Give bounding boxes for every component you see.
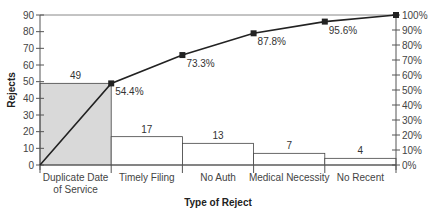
x-tick-label: No Auth (200, 172, 236, 183)
y-tick-label: 20 (23, 126, 35, 137)
y2-tick-label: 30% (402, 115, 422, 126)
x-tick-label: Timely Filing (119, 172, 175, 183)
line-marker (322, 19, 328, 25)
y-tick-label: 10 (23, 143, 35, 154)
bar (182, 143, 253, 165)
bar-value-label: 17 (141, 124, 153, 135)
y2-tick-label: 80% (402, 40, 422, 51)
x-tick-label: Duplicate Date (43, 172, 109, 183)
x-tick-label: Medical Necessity (249, 172, 330, 183)
bar (325, 158, 396, 165)
y-tick-label: 90 (23, 10, 35, 21)
line-marker (179, 52, 185, 58)
y2-tick-label: 100% (402, 10, 428, 21)
y-tick-label: 30 (23, 110, 35, 121)
line-marker (251, 30, 257, 36)
y2-tick-label: 70% (402, 55, 422, 66)
cumulative-label: 95.6% (329, 25, 357, 36)
y2-tick-label: 10% (402, 145, 422, 156)
y-tick-label: 80 (23, 26, 35, 37)
bar (111, 137, 182, 165)
y-tick-label: 0 (28, 160, 34, 171)
y2-tick-label: 40% (402, 100, 422, 111)
y-axis-title: Rejects (6, 72, 17, 108)
y-tick-label: 60 (23, 60, 35, 71)
y-tick-label: 50 (23, 76, 35, 87)
y-tick-label: 70 (23, 43, 35, 54)
pareto-chart: 4917137401020304050607080900%10%20%30%40… (0, 0, 435, 212)
cumulative-label: 87.8% (258, 36, 286, 47)
bar-value-label: 7 (286, 140, 292, 151)
bar (254, 153, 325, 165)
cumulative-label: 73.3% (186, 58, 214, 69)
line-marker (108, 80, 114, 86)
y-tick-label: 40 (23, 93, 35, 104)
y2-tick-label: 50% (402, 85, 422, 96)
bar-value-label: 13 (212, 130, 224, 141)
y2-tick-label: 0% (402, 160, 417, 171)
cumulative-label: 54.4% (115, 86, 143, 97)
y2-tick-label: 60% (402, 70, 422, 81)
line-marker (393, 12, 399, 18)
bar-value-label: 49 (70, 70, 82, 81)
x-axis-title: Type of Reject (184, 197, 252, 208)
y2-tick-label: 90% (402, 25, 422, 36)
y2-tick-label: 20% (402, 130, 422, 141)
x-tick-label: No Recent (337, 172, 384, 183)
bar-value-label: 4 (358, 145, 364, 156)
x-tick-label: of Service (53, 184, 98, 195)
